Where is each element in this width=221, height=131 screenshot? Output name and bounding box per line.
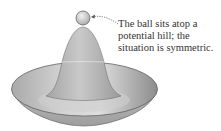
caption-line-1: The ball sits atop a <box>118 18 221 30</box>
caption-line-3: situation is symmetric. <box>118 42 221 54</box>
pointer-arrow <box>92 16 118 24</box>
ball <box>76 11 90 25</box>
diagram-canvas: The ball sits atop a potential hill; the… <box>0 0 221 131</box>
caption: The ball sits atop a potential hill; the… <box>118 18 221 54</box>
arrowhead-icon <box>91 15 95 19</box>
caption-line-2: potential hill; the <box>118 30 221 42</box>
